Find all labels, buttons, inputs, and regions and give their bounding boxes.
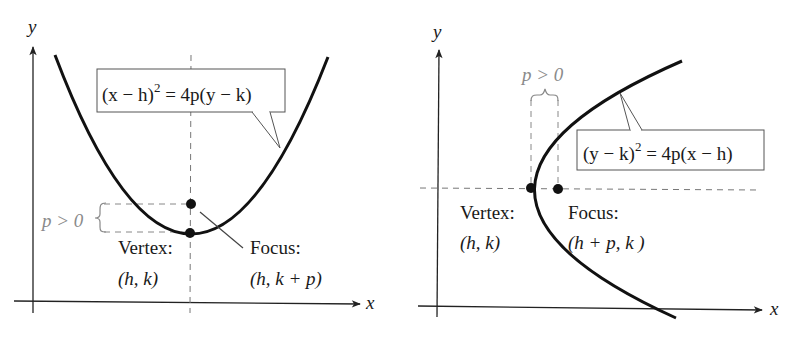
right-focus-title: Focus: (568, 202, 619, 223)
left-focus-coords: (h, k + p) (250, 268, 322, 290)
right-x-axis (418, 306, 762, 310)
right-p-brace (531, 89, 558, 101)
left-focus-pointer (200, 212, 243, 248)
left-focus-title: Focus: (250, 237, 301, 258)
right-condition-label: p > 0 (520, 64, 564, 85)
left-figure: y x p > 0 (x − h)2 = 4p(y − k) Vertex: (… (14, 16, 375, 313)
left-focus-point (186, 199, 196, 209)
right-focus-point (553, 184, 563, 194)
right-x-axis-label: x (769, 298, 779, 319)
left-vertex-point (185, 228, 195, 238)
right-figure: y x p > 0 (y − k)2 = 4p(x − h) Vertex: (… (418, 21, 779, 319)
parabola-diagram: y x p > 0 (x − h)2 = 4p(y − k) Vertex: (… (0, 0, 798, 345)
right-axis-of-symmetry (420, 188, 760, 190)
right-equation: (y − k)2 = 4p(x − h) (583, 139, 732, 165)
left-condition-label: p > 0 (40, 210, 84, 231)
left-vertex-coords: (h, k) (118, 268, 158, 290)
left-x-axis (14, 301, 360, 304)
right-vertex-title: Vertex: (460, 202, 515, 223)
left-p-brace (95, 203, 106, 232)
left-callout-pointer (252, 112, 280, 148)
right-callout-pointer (620, 93, 642, 130)
left-vertex-title: Vertex: (118, 237, 173, 258)
left-x-axis-label: x (365, 292, 375, 313)
right-vertex-point (526, 183, 536, 193)
right-y-axis (437, 50, 439, 317)
right-focus-coords: (h + p, k ) (568, 232, 645, 254)
left-y-axis-label: y (26, 16, 37, 37)
right-y-axis-label: y (431, 21, 442, 42)
left-equation: (x − h)2 = 4p(y − k) (102, 80, 251, 106)
right-vertex-coords: (h, k) (460, 232, 500, 254)
